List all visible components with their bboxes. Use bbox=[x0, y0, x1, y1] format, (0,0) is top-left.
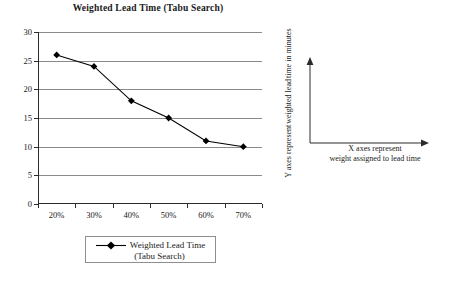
x-tick-0 bbox=[38, 204, 39, 208]
legend-entry: Weighted Lead Time bbox=[86, 240, 215, 250]
legend-label-line2: (Tabu Search) bbox=[86, 251, 215, 261]
diamond-marker-icon bbox=[96, 241, 126, 250]
x-tick-label-50pct: 50% bbox=[161, 210, 177, 220]
x-tick-4 bbox=[187, 204, 188, 208]
y-tick-label-0: 0 bbox=[28, 199, 32, 209]
x-axis-caption: X axes represent weight assigned to lead… bbox=[300, 144, 450, 164]
x-tick-label-40pct: 40% bbox=[124, 210, 140, 220]
legend-label-line1: Weighted Lead Time bbox=[130, 240, 205, 250]
data-point bbox=[203, 138, 210, 145]
x-axis-caption-line1: X axes represent bbox=[300, 144, 450, 154]
x-tick-2 bbox=[113, 204, 114, 208]
y-axis-caption-line1: Y axes represent bbox=[284, 125, 294, 178]
y-tick-label-25: 25 bbox=[24, 56, 33, 66]
data-series-weighted-lead-time bbox=[38, 32, 262, 204]
y-tick-label-20: 20 bbox=[24, 84, 33, 94]
axis-explanation-diagram: Y axes represent weighted lead time in m… bbox=[284, 55, 450, 175]
plot-area: 30 25 20 15 10 5 0 20% 30% 40% 50% 60% 7… bbox=[38, 32, 262, 204]
data-point bbox=[240, 143, 247, 150]
x-tick-6 bbox=[262, 204, 263, 208]
legend: Weighted Lead Time (Tabu Search) bbox=[85, 236, 216, 263]
x-tick-label-20pct: 20% bbox=[49, 210, 65, 220]
series-markers bbox=[53, 52, 246, 151]
chart-title: Weighted Lead Time (Tabu Search) bbox=[30, 3, 266, 13]
series-line bbox=[57, 55, 244, 147]
x-tick-label-30pct: 30% bbox=[86, 210, 102, 220]
x-tick-5 bbox=[225, 204, 226, 208]
data-point bbox=[165, 115, 172, 122]
x-tick-label-70pct: 70% bbox=[236, 210, 252, 220]
y-tick-label-15: 15 bbox=[24, 113, 33, 123]
x-tick-3 bbox=[150, 204, 151, 208]
x-tick-label-60pct: 60% bbox=[198, 210, 214, 220]
y-tick-label-5: 5 bbox=[28, 170, 32, 180]
y-tick-label-30: 30 bbox=[24, 27, 33, 37]
y-axis-caption: Y axes represent weighted lead time in m… bbox=[284, 55, 318, 151]
data-point bbox=[53, 52, 60, 59]
y-axis-caption-line3: time in minutes bbox=[284, 28, 294, 78]
y-tick-label-10: 10 bbox=[24, 142, 33, 152]
x-axis-caption-line2: weight assigned to lead time bbox=[300, 154, 450, 164]
y-axis-caption-line2: weighted lead bbox=[284, 79, 294, 124]
x-tick-1 bbox=[75, 204, 76, 208]
